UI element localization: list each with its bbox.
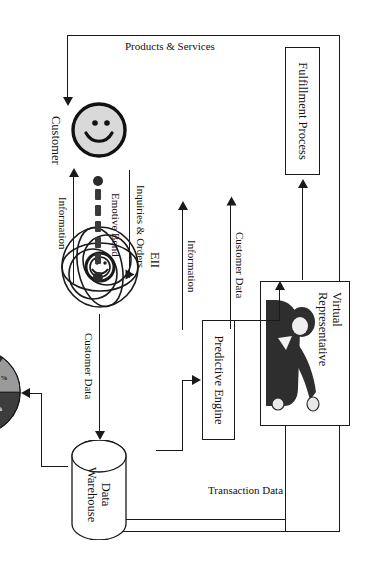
node-label-fulfillment-process: Fulfillment Process	[295, 62, 310, 160]
node-fulfillment-process[interactable]: Fulfillment Process	[285, 47, 320, 175]
arrowhead-dw-to-pe	[192, 375, 201, 385]
line-eii-to-dw	[99, 314, 100, 432]
node-predictive-engine[interactable]: Predictive Engine	[202, 320, 235, 440]
edge-emotive-bond	[94, 176, 106, 282]
edge-label-inquiries-orders: Inquiries & Orders	[135, 185, 147, 268]
line-transaction-data-a-top	[285, 426, 286, 532]
pie-slice-label: 15 %	[0, 374, 7, 382]
line-dw-to-pie-horiz	[41, 393, 42, 467]
node-label-eii: EII	[148, 252, 162, 268]
dw-label-line2: Warehouse	[85, 467, 99, 522]
line-pe-to-vr-vert	[234, 320, 280, 321]
line-dw-to-pe-vert	[156, 450, 183, 451]
arrowhead-dw-to-pie	[21, 388, 30, 398]
arrowhead-information-to-customer	[69, 168, 79, 177]
vr-label-line1: Virtual	[330, 292, 344, 327]
edge-label-customer-data-to-dw: Customer Data	[83, 333, 95, 399]
node-label-customer: Customer	[49, 116, 63, 165]
line-information-to-customer	[73, 177, 74, 283]
smiley-face-icon[interactable]	[69, 100, 129, 160]
line-vr-to-fulfillment	[302, 188, 303, 280]
edge-label-customer-data-to-vr: Customer Data	[234, 232, 246, 298]
line-products-services-left	[68, 35, 340, 36]
line-customer-data-to-vr	[230, 203, 231, 329]
arrowhead-customer-data-to-vr	[227, 197, 237, 206]
node-label-predictive-engine: Predictive Engine	[211, 335, 226, 424]
edge-label-emotive-bond: Emotive Bond	[110, 193, 122, 257]
line-products-services-right	[286, 531, 340, 532]
line-information-from-vr	[182, 210, 183, 330]
diagram-rotated-canvas: Products & Services Fulfillment Process …	[0, 0, 368, 570]
pie-slice-label: 25 %	[0, 405, 3, 413]
line-inquiries-orders	[129, 170, 130, 278]
line-pe-to-vr	[279, 290, 280, 321]
edge-label-information-from-vr: Information	[186, 240, 198, 293]
arrowhead-pe-to-vr	[275, 281, 285, 290]
edge-label-information-to-customer: Information	[57, 197, 69, 250]
diagram-canvas: Products & Services Fulfillment Process …	[0, 0, 368, 570]
arrowhead-vr-to-fulfillment	[298, 179, 308, 188]
line-dw-to-pe-horiz	[182, 380, 183, 451]
pie-chart-icon[interactable]: 25 %15 %15 %15 %15 %15 %	[0, 348, 22, 436]
dw-label-line1: Data	[99, 483, 113, 507]
arrowhead-inquiries-orders	[126, 270, 135, 280]
businessman-icon	[264, 292, 322, 422]
arrowhead-eii-to-dw	[95, 431, 105, 440]
pie-slice	[0, 392, 20, 434]
line-dw-to-pie-down	[28, 393, 42, 394]
arrowhead-information-from-vr	[178, 201, 188, 210]
node-label-data-warehouse: Data Warehouse	[84, 467, 113, 522]
line-products-services-bottom	[67, 35, 68, 97]
edge-label-transaction-data: Transaction Data	[208, 484, 283, 496]
edge-label-products-services: Products & Services	[125, 40, 215, 52]
line-dw-to-pe-up	[182, 380, 192, 381]
line-dw-to-pie-vert	[42, 466, 68, 467]
